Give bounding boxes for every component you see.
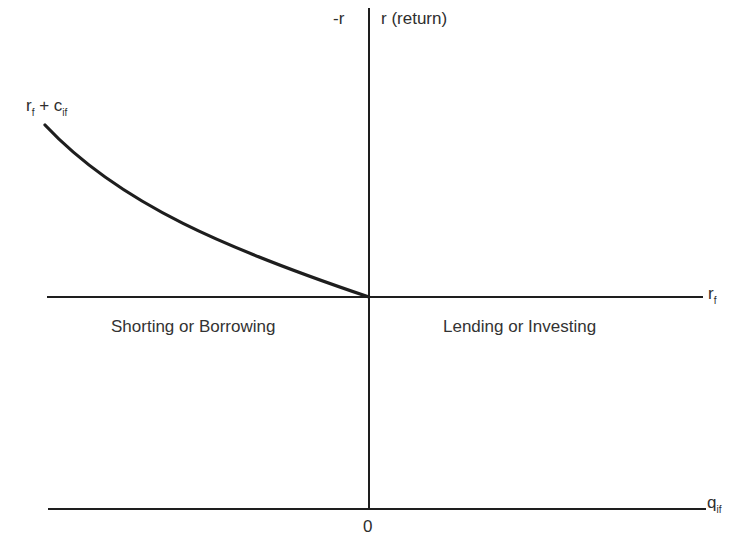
borrowing-cost-curve (45, 125, 369, 297)
neg-r-label: -r (333, 10, 344, 27)
cif-sub: if (62, 107, 67, 118)
diagram-canvas (0, 0, 747, 557)
origin-label: 0 (363, 518, 372, 535)
r-return-label: r (return) (381, 10, 447, 27)
left-region-label: Shorting or Borrowing (111, 318, 275, 335)
plus-c: + c (34, 96, 62, 115)
rf-label-main: r (708, 284, 714, 303)
rf-label: rf (708, 285, 716, 302)
qif-label: qif (707, 494, 721, 511)
rf-main: r (26, 96, 32, 115)
curve-start-label: rf + cif (26, 97, 67, 114)
qif-label-sub: if (716, 504, 721, 515)
right-region-label: Lending or Investing (443, 318, 596, 335)
